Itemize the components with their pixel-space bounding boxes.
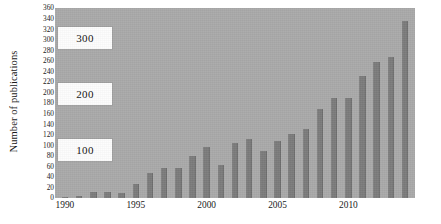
y-axis-tick-label: 340 — [43, 15, 54, 22]
bar — [118, 193, 125, 198]
x-axis-tick-label: 2005 — [268, 200, 287, 210]
bar — [274, 141, 281, 198]
plot-area: 300200100 — [55, 8, 415, 198]
x-axis-tick-label: 2010 — [339, 200, 358, 210]
bar — [303, 129, 310, 198]
y-axis-tick-label: 300 — [43, 36, 54, 43]
bar — [90, 192, 97, 198]
y-axis-tick-labels: 0204060801001201401601802002202402602803… — [32, 0, 54, 224]
y-axis-tick-label: 280 — [43, 47, 54, 54]
annotation-box: 300 — [58, 27, 112, 49]
x-axis-tick-label: 2000 — [197, 200, 216, 210]
y-axis-tick-label: 160 — [43, 110, 54, 117]
bar — [402, 21, 409, 198]
bar — [345, 98, 352, 198]
bar — [104, 192, 111, 198]
bar — [76, 196, 83, 198]
bar — [359, 76, 366, 198]
annotation-box: 100 — [58, 139, 112, 161]
y-axis-tick-label: 120 — [43, 131, 54, 138]
bar — [232, 143, 239, 198]
y-axis-tick-label: 40 — [47, 173, 54, 180]
y-axis-tick-label: 260 — [43, 57, 54, 64]
y-axis-tick-label: 200 — [43, 89, 54, 96]
x-axis-tick-label: 1995 — [126, 200, 145, 210]
bar — [260, 151, 267, 199]
y-axis-title: Number of publications — [8, 27, 19, 177]
y-axis-tick-label: 20 — [47, 184, 54, 191]
bar — [317, 109, 324, 198]
bar — [388, 57, 395, 198]
bar-chart: Number of publications 02040608010012014… — [0, 0, 441, 224]
x-axis-tick-labels: 19901995200020052010 — [0, 200, 441, 220]
annotation-box: 200 — [58, 83, 112, 105]
bar — [175, 168, 182, 198]
y-axis-tick-label: 240 — [43, 68, 54, 75]
bar — [147, 173, 154, 198]
y-axis-tick-label: 80 — [47, 152, 54, 159]
y-axis-tick-label: 140 — [43, 121, 54, 128]
bar — [373, 62, 380, 198]
bar — [331, 98, 338, 198]
y-axis-tick-label: 100 — [43, 142, 54, 149]
y-axis-tick-label: 180 — [43, 99, 54, 106]
bar — [203, 147, 210, 198]
bar — [62, 197, 69, 198]
bar — [246, 139, 253, 198]
y-axis-tick-label: 60 — [47, 163, 54, 170]
bar — [161, 168, 168, 198]
y-axis-tick-label: 220 — [43, 78, 54, 85]
bar — [189, 156, 196, 198]
y-axis-tick-label: 360 — [43, 4, 54, 11]
bar — [133, 184, 140, 198]
y-axis-tick-label: 320 — [43, 26, 54, 33]
bar — [288, 134, 295, 198]
x-axis-tick-label: 1990 — [56, 200, 75, 210]
bar — [218, 165, 225, 198]
